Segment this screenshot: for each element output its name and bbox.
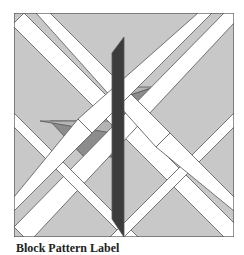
quilt-block-diagram bbox=[14, 13, 234, 237]
block-caption: Block Pattern Label bbox=[16, 242, 119, 254]
stem bbox=[112, 37, 124, 237]
